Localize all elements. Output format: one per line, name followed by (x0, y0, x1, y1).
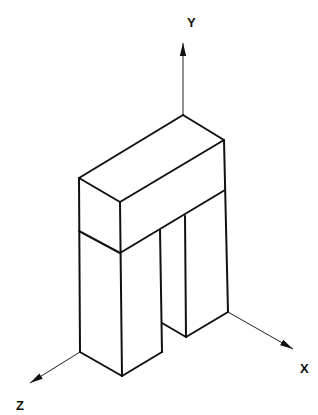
object-edge (162, 323, 186, 337)
object-edge (79, 178, 80, 352)
object-edge (120, 202, 122, 376)
object-edge (186, 312, 228, 337)
object-edge (224, 140, 228, 312)
z-axis-arrow-icon (30, 373, 43, 383)
object-edge (160, 230, 162, 352)
object-edge (79, 115, 183, 178)
y-axis-label: Y (187, 15, 196, 30)
object-edge (120, 190, 225, 253)
z-axis-label: Z (16, 398, 24, 413)
isometric-arch-diagram: Y X Z (0, 0, 318, 415)
object-edge (122, 352, 162, 376)
object-edge (185, 216, 186, 337)
object-edge (183, 115, 224, 140)
y-axis-arrow-icon (180, 43, 186, 56)
object-edge (80, 352, 122, 376)
object-edge (79, 178, 120, 202)
x-axis-label: X (300, 361, 309, 376)
x-axis-arrow-icon (280, 340, 293, 349)
object-edges (79, 115, 228, 376)
object-edge (120, 140, 224, 202)
axis-labels: Y X Z (16, 15, 309, 413)
object-edge (79, 231, 120, 253)
